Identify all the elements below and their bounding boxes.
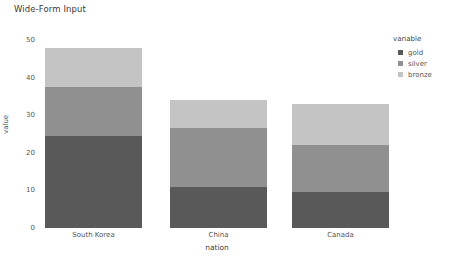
y-axis-tick-label: 10 bbox=[26, 186, 35, 194]
bar-group[interactable] bbox=[292, 104, 389, 228]
legend-swatch-bronze bbox=[398, 72, 403, 77]
legend-item-bronze[interactable]: bronze bbox=[398, 69, 452, 80]
legend-swatch-gold bbox=[398, 50, 403, 55]
x-axis-tick-label: China bbox=[170, 231, 267, 239]
bar-segment-silver[interactable] bbox=[45, 87, 142, 136]
bar-segment-bronze[interactable] bbox=[292, 104, 389, 145]
bar-segment-gold[interactable] bbox=[292, 192, 389, 228]
bar-group[interactable] bbox=[45, 48, 142, 228]
chart-figure: Wide-Form Input value 01020304050 South … bbox=[0, 0, 454, 265]
bar-segment-gold[interactable] bbox=[45, 136, 142, 228]
y-axis-tick-label: 0 bbox=[31, 224, 35, 232]
legend-swatch-silver bbox=[398, 61, 403, 66]
bar-segment-silver[interactable] bbox=[292, 145, 389, 192]
legend-item-gold[interactable]: gold bbox=[398, 47, 452, 58]
bar-group[interactable] bbox=[170, 100, 267, 228]
legend-title: variable bbox=[393, 35, 452, 43]
y-axis-tick-label: 30 bbox=[26, 111, 35, 119]
legend: variable goldsilverbronze bbox=[390, 35, 452, 80]
legend-items: goldsilverbronze bbox=[390, 47, 452, 80]
x-axis-title: nation bbox=[45, 243, 389, 252]
y-axis-tick-label: 20 bbox=[26, 149, 35, 157]
x-axis-tick-label: Canada bbox=[292, 231, 389, 239]
bar-segment-gold[interactable] bbox=[170, 187, 267, 228]
x-axis-tick-label: South Korea bbox=[45, 231, 142, 239]
legend-label: gold bbox=[408, 49, 423, 57]
legend-label: silver bbox=[408, 60, 427, 68]
bar-segment-bronze[interactable] bbox=[170, 100, 267, 128]
y-axis-tick-label: 40 bbox=[26, 74, 35, 82]
y-axis-tick-label: 50 bbox=[26, 36, 35, 44]
chart-title: Wide-Form Input bbox=[14, 4, 86, 14]
bar-segment-silver[interactable] bbox=[170, 128, 267, 186]
bar-segment-bronze[interactable] bbox=[45, 48, 142, 87]
y-axis-ticks: 01020304050 bbox=[0, 40, 41, 228]
legend-label: bronze bbox=[408, 71, 432, 79]
legend-item-silver[interactable]: silver bbox=[398, 58, 452, 69]
plot-area bbox=[45, 40, 389, 228]
